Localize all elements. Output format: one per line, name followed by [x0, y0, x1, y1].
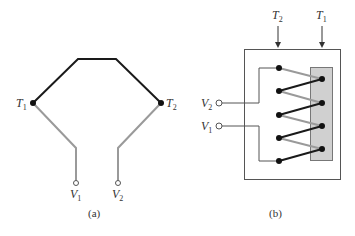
- label-t2-b: T2: [272, 9, 283, 24]
- terminal-v1-icon: [216, 123, 222, 129]
- junction-t1-dot: [30, 100, 36, 106]
- label-main: T: [166, 96, 173, 110]
- junction-dot: [276, 65, 282, 71]
- junction-dot: [319, 100, 325, 106]
- label-t2-a: T2: [166, 97, 177, 112]
- lead-wire-v1: [222, 126, 279, 161]
- label-sub: 2: [208, 103, 212, 112]
- label-main: T: [316, 8, 323, 22]
- label-main: T: [272, 8, 279, 22]
- label-v2-b: V2: [201, 97, 212, 112]
- junction-t2-dot: [158, 100, 164, 106]
- label-t1-a: T1: [16, 97, 27, 112]
- label-sub: 2: [173, 103, 177, 112]
- dark-conductor-wire: [33, 59, 161, 103]
- label-main: T: [16, 96, 23, 110]
- junction-dot: [319, 123, 325, 129]
- caption-a: (a): [88, 208, 100, 219]
- label-sub: 1: [208, 126, 212, 135]
- figure-a-thermocouple: [30, 59, 164, 186]
- junction-dot: [319, 76, 325, 82]
- junction-dot: [319, 146, 325, 152]
- label-v2-a: V2: [112, 188, 123, 203]
- label-v1-a: V1: [70, 188, 81, 203]
- label-t1-b: T1: [316, 9, 327, 24]
- thermocouple-diagram: [0, 0, 355, 236]
- terminal-v1-icon: [74, 181, 79, 186]
- junction-dot: [276, 135, 282, 141]
- label-sub: 1: [77, 194, 81, 203]
- terminal-v2-icon: [216, 100, 222, 106]
- junction-dot: [276, 88, 282, 94]
- caption-b: (b): [269, 208, 282, 219]
- arrow-t2-head-icon: [275, 42, 281, 48]
- terminal-v2-icon: [116, 181, 121, 186]
- lead-wire-v2: [222, 68, 279, 103]
- gray-conductor-wire-left: [33, 103, 76, 181]
- label-sub: 1: [323, 15, 327, 24]
- junction-dot: [276, 158, 282, 164]
- gray-conductor-wire-right: [118, 103, 161, 181]
- label-sub: 2: [279, 15, 283, 24]
- junction-dot: [276, 112, 282, 118]
- arrow-t1-head-icon: [319, 42, 325, 48]
- figure-b-thermopile: [216, 26, 341, 180]
- label-sub: 2: [119, 194, 123, 203]
- label-sub: 1: [23, 103, 27, 112]
- label-v1-b: V1: [201, 120, 212, 135]
